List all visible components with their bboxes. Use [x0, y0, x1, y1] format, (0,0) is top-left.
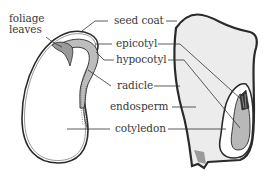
- leader-seed-coat-left: [82, 21, 108, 31]
- label-epicotyl: epicotyl: [116, 38, 157, 49]
- seed-anatomy-diagram: foliage leaves seed coat epicotyl hypoco…: [0, 0, 273, 176]
- monocot-seed: [174, 15, 256, 169]
- label-foliage-leaves-line2: leaves: [9, 24, 42, 35]
- label-hypocotyl: hypocotyl: [116, 54, 167, 65]
- dicot-seed: [22, 31, 98, 163]
- label-radicle: radicle: [117, 80, 153, 91]
- label-cotyledon: cotyledon: [115, 123, 166, 134]
- leader-hypocotyl-left: [96, 52, 114, 60]
- label-endosperm: endosperm: [110, 101, 168, 112]
- label-seed-coat: seed coat: [114, 15, 164, 26]
